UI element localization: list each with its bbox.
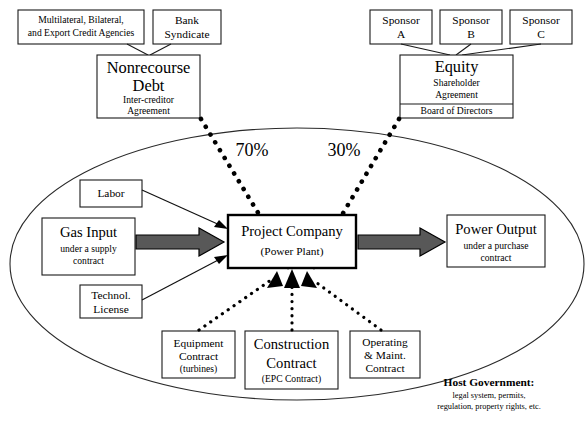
project-company-line1: Project Company [241, 223, 343, 239]
equity-title: Equity [435, 57, 480, 76]
om-contract-arrowhead [301, 271, 317, 288]
bank-syndicate-line1: Bank [175, 14, 199, 26]
labor-to-project-line [142, 190, 222, 226]
debt-sub-line1: Inter-creditor [123, 94, 175, 105]
connector-bank-to-debt [150, 44, 171, 55]
construction-contract-line3: (EPC Contract) [262, 373, 321, 385]
gas-input-sub-line1: under a supply [60, 243, 117, 254]
equipment-contract-line3: (turbines) [180, 363, 217, 375]
agencies-line1: Multilateral, Bilateral, [38, 14, 124, 25]
power-output-sub-line1: under a purchase [464, 240, 529, 251]
project-finance-diagram: Multilateral, Bilateral, and Export Cred… [0, 0, 586, 422]
power-output-sub-line2: contract [481, 252, 512, 263]
agencies-line2: and Export Credit Agencies [28, 27, 135, 38]
sponsor-b-line2: B [467, 28, 475, 40]
equity-sub-line1: Shareholder [433, 77, 480, 88]
technology-to-project-arrowhead [214, 255, 228, 264]
sponsor-b-line1: Sponsor [452, 14, 490, 26]
gas-input-title: Gas Input [60, 224, 117, 240]
debt-title-line2: Debt [133, 76, 165, 95]
gas-input-flow-arrow [136, 228, 224, 256]
bank-syndicate-line2: Syndicate [165, 28, 210, 40]
construction-contract-line2: Contract [266, 355, 316, 371]
equipment-contract-line2: Contract [179, 350, 219, 362]
equipment-contract-link [199, 280, 271, 330]
sponsor-c-line1: Sponsor [522, 14, 560, 26]
power-output-title: Power Output [455, 221, 536, 237]
equity-percentage-label: 30% [328, 140, 361, 160]
host-government-line2: regulation, property rights, etc. [437, 402, 541, 411]
project-company-line2: (Power Plant) [261, 245, 324, 258]
board-of-directors-label: Board of Directors [421, 105, 493, 116]
om-contract-line1: Operating [362, 336, 408, 348]
connector-sponsor-c-to-equity [462, 44, 541, 55]
om-contract-line3: Contract [365, 362, 405, 374]
connector-agencies-to-debt [127, 44, 148, 55]
labor-to-project-arrowhead [214, 220, 228, 229]
equipment-contract-arrowhead [267, 271, 283, 288]
labor-label: Labor [97, 187, 124, 199]
debt-title-line1: Nonrecourse [107, 58, 191, 77]
gas-input-sub-line2: contract [73, 255, 104, 266]
sponsor-c-line2: C [537, 28, 545, 40]
connector-sponsor-a-to-equity [401, 44, 450, 55]
power-output-flow-arrow [358, 228, 445, 256]
technology-line1: Technol. [91, 289, 131, 301]
connector-sponsor-b-to-equity [456, 44, 471, 55]
construction-contract-line1: Construction [254, 336, 330, 352]
om-contract-line2: & Maint. [364, 349, 406, 361]
debt-sub-line2: Agreement [127, 105, 170, 116]
construction-contract-arrowhead [284, 269, 300, 288]
host-government-line1: legal system, permits, [452, 391, 525, 400]
host-government-heading: Host Government: [444, 376, 535, 388]
diagram-canvas: Multilateral, Bilateral, and Export Cred… [0, 0, 586, 422]
equipment-contract-line1: Equipment [174, 337, 225, 349]
om-contract-link [313, 280, 381, 330]
sponsor-a-line1: Sponsor [382, 14, 420, 26]
technology-line2: License [93, 303, 128, 315]
technology-to-project-line [142, 258, 222, 300]
debt-percentage-label: 70% [236, 140, 269, 160]
sponsor-a-line2: A [397, 28, 406, 40]
equity-sub-line2: Agreement [435, 89, 478, 100]
